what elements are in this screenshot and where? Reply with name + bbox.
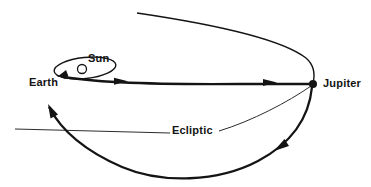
earth-label: Earth <box>29 76 58 88</box>
loop-end-arrowhead-icon <box>48 104 58 119</box>
trajectory-arrowhead-1-icon <box>114 78 128 85</box>
diagram-canvas <box>0 0 371 187</box>
ecliptic-label: Ecliptic <box>172 124 213 136</box>
top-return-curve <box>137 13 314 83</box>
sun-label: Sun <box>88 52 109 64</box>
jupiter-label: Jupiter <box>323 77 361 89</box>
ecliptic-line-left <box>15 129 170 133</box>
trajectory-diagram: Sun Earth Jupiter Ecliptic <box>0 0 371 187</box>
ecliptic-line-right <box>219 86 311 131</box>
sun-symbol-icon <box>78 65 87 74</box>
